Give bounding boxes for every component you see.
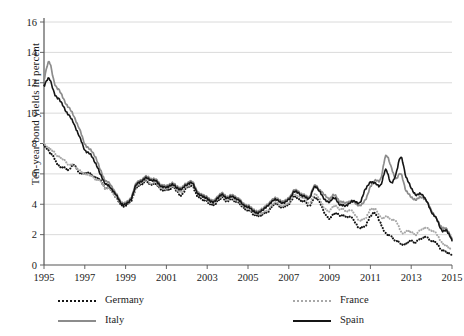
chart-container: Ten-year bond yields in percent 02468101… bbox=[0, 0, 464, 336]
legend-item-spain: Spain bbox=[293, 314, 364, 325]
x-tick-label: 1999 bbox=[115, 272, 136, 283]
legend-swatch-italy-solid-icon bbox=[58, 315, 96, 325]
data-series-group bbox=[44, 62, 452, 256]
chart-legend: Germany Italy France Spain bbox=[0, 292, 464, 336]
legend-swatch-france-dotted-icon bbox=[293, 295, 331, 305]
gridlines-group bbox=[44, 22, 452, 235]
legend-item-france: France bbox=[293, 294, 369, 305]
x-tick-label: 2011 bbox=[360, 272, 381, 283]
x-axis-ticks-group: 1995199719992001200320052007200920112013… bbox=[34, 265, 463, 283]
x-tick-label: 2001 bbox=[156, 272, 177, 283]
legend-item-italy: Italy bbox=[58, 314, 124, 325]
x-tick-label: 2005 bbox=[238, 272, 259, 283]
legend-label-france: France bbox=[340, 294, 369, 305]
series-line-spain bbox=[44, 78, 452, 241]
x-tick-label: 2009 bbox=[319, 272, 340, 283]
y-axis-title: Ten-year bond yields in percent bbox=[29, 24, 41, 204]
x-tick-label: 1997 bbox=[74, 272, 95, 283]
y-tick-label: 0 bbox=[32, 260, 37, 271]
legend-label-spain: Spain bbox=[340, 314, 364, 325]
y-tick-label: 2 bbox=[32, 229, 37, 240]
series-line-germany bbox=[44, 145, 452, 256]
x-tick-label: 1995 bbox=[34, 272, 55, 283]
legend-label-germany: Germany bbox=[105, 294, 144, 305]
line-chart-plot: 0246810121416 19951997199920012003200520… bbox=[0, 0, 464, 292]
series-line-france bbox=[44, 143, 452, 250]
x-tick-label: 2003 bbox=[197, 272, 218, 283]
x-tick-label: 2013 bbox=[401, 272, 422, 283]
legend-swatch-spain-solid-icon bbox=[293, 315, 331, 325]
x-tick-label: 2015 bbox=[442, 272, 463, 283]
axis-lines-group bbox=[44, 18, 452, 265]
legend-item-germany: Germany bbox=[58, 294, 144, 305]
legend-swatch-germany-dotted-icon bbox=[58, 295, 96, 305]
series-line-italy bbox=[44, 62, 452, 240]
x-tick-label: 2007 bbox=[278, 272, 299, 283]
legend-label-italy: Italy bbox=[105, 314, 124, 325]
